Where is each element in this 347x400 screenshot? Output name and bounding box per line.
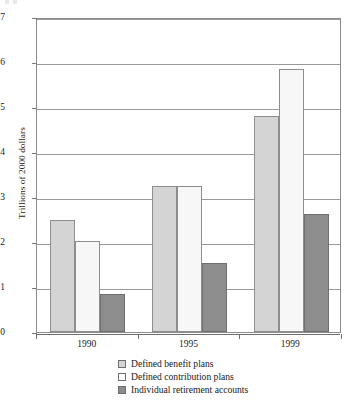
y-tick-label-3: 3 <box>0 193 5 203</box>
bar-1995-series2 <box>202 263 227 332</box>
y-tick-label-2: 2 <box>0 238 5 248</box>
y-tick-mark-4 <box>32 153 37 154</box>
y-tick-mark-2 <box>32 243 37 244</box>
legend-label-2: Individual retirement accounts <box>131 384 248 395</box>
bar-1990-series0 <box>50 220 75 332</box>
legend-swatch-icon-2 <box>118 386 126 394</box>
legend-item-2: Individual retirement accounts <box>118 383 338 396</box>
x-tick-label-1999: 1999 <box>260 339 320 349</box>
y-tick-mark-1 <box>32 288 37 289</box>
y-tick-label-0: 0 <box>0 328 5 338</box>
plot-area <box>36 18 341 333</box>
y-tick-mark-3 <box>32 198 37 199</box>
y-tick-label-7: 7 <box>0 13 5 23</box>
x-axis-tick-mark-2 <box>239 334 240 339</box>
x-axis-tick-mark-3 <box>341 334 342 339</box>
x-tick-label-1990: 1990 <box>57 339 117 349</box>
chart-legend: Defined benefit plansDefined contributio… <box>118 357 338 396</box>
x-axis-tick-mark-1 <box>138 334 139 339</box>
gridline-0 <box>37 334 340 335</box>
bar-chart-figure: Trillions of 2000 dollars 01234567 19901… <box>0 0 347 400</box>
legend-item-1: Defined contribution plans <box>118 370 338 383</box>
y-tick-label-6: 6 <box>0 58 5 68</box>
legend-swatch-icon-0 <box>118 360 126 368</box>
y-tick-label-1: 1 <box>0 283 5 293</box>
x-axis-tick-mark-0 <box>36 334 37 339</box>
bar-1999-series0 <box>254 116 279 332</box>
bar-1999-series2 <box>304 214 329 332</box>
legend-label-0: Defined benefit plans <box>131 358 214 369</box>
bar-1990-series1 <box>75 241 100 332</box>
bar-1990-series2 <box>100 294 125 332</box>
y-tick-mark-5 <box>32 108 37 109</box>
bar-1999-series1 <box>279 69 304 332</box>
y-tick-label-5: 5 <box>0 103 5 113</box>
bars-layer <box>37 19 340 332</box>
legend-item-0: Defined benefit plans <box>118 357 338 370</box>
y-tick-mark-6 <box>32 63 37 64</box>
x-tick-label-1995: 1995 <box>159 339 219 349</box>
y-axis-title: Trillions of 2000 dollars <box>17 93 27 253</box>
bar-1995-series1 <box>177 186 202 332</box>
legend-swatch-icon-1 <box>118 373 126 381</box>
y-tick-label-4: 4 <box>0 148 5 158</box>
legend-label-1: Defined contribution plans <box>131 371 234 382</box>
bar-1995-series0 <box>152 186 177 332</box>
y-tick-mark-7 <box>32 18 37 19</box>
